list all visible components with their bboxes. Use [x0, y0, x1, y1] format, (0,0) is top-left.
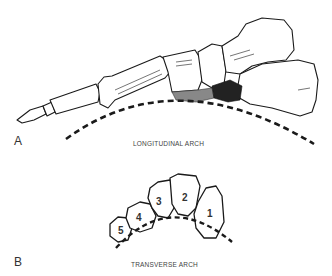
- foot-arches-diagram: 5 4 3 2 1 A LONGITUDINAL ARCH B TRANSVER…: [0, 0, 332, 276]
- bone-number-5: 5: [118, 225, 124, 236]
- caption-longitudinal-arch: LONGITUDINAL ARCH: [133, 140, 204, 147]
- foot-skeleton-longitudinal: [17, 18, 318, 123]
- panel-label-b: B: [14, 255, 22, 269]
- bone-number-2: 2: [182, 192, 188, 203]
- bone-number-1: 1: [207, 208, 213, 219]
- diagram-drawing: [0, 0, 332, 276]
- bone-number-4: 4: [136, 212, 142, 223]
- caption-transverse-arch: TRANSVERSE ARCH: [131, 261, 198, 268]
- panel-label-a: A: [14, 134, 22, 148]
- bone-number-3: 3: [156, 196, 162, 207]
